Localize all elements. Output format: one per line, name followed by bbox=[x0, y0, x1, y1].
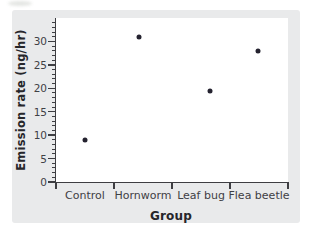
y-minor-tick bbox=[52, 92, 56, 93]
y-minor-tick bbox=[52, 50, 56, 51]
data-point-flea-beetle bbox=[256, 48, 261, 53]
y-minor-tick bbox=[52, 167, 56, 168]
y-minor-tick bbox=[52, 60, 56, 61]
y-minor-tick bbox=[52, 46, 56, 47]
data-point-hornworm bbox=[137, 34, 142, 39]
x-category-label: Flea beetle bbox=[228, 189, 289, 202]
y-minor-tick bbox=[52, 121, 56, 122]
y-minor-tick bbox=[52, 22, 56, 23]
y-minor-tick bbox=[52, 97, 56, 98]
y-minor-tick bbox=[52, 55, 56, 56]
y-minor-tick bbox=[52, 144, 56, 145]
data-point-control bbox=[83, 137, 88, 142]
figure-page: Emission rate (ng/hr) 051015202530Contro… bbox=[0, 0, 309, 234]
y-major-tick bbox=[48, 88, 55, 90]
y-tick-label: 10 bbox=[17, 128, 47, 142]
x-category-label: Leaf bug bbox=[177, 189, 225, 202]
x-tick bbox=[113, 182, 115, 189]
y-major-tick bbox=[48, 181, 55, 183]
y-minor-tick bbox=[52, 139, 56, 140]
y-minor-tick bbox=[52, 172, 56, 173]
y-tick-label: 25 bbox=[17, 58, 47, 72]
y-minor-tick bbox=[52, 149, 56, 150]
y-minor-tick bbox=[52, 177, 56, 178]
y-minor-tick bbox=[52, 163, 56, 164]
y-tick-label: 0 bbox=[17, 175, 47, 189]
y-minor-tick bbox=[52, 130, 56, 131]
x-category-label: Control bbox=[65, 189, 105, 202]
y-tick-label: 15 bbox=[17, 105, 47, 119]
y-minor-tick bbox=[52, 83, 56, 84]
y-major-tick bbox=[48, 158, 55, 160]
plot-area: 051015202530ControlHornwormLeaf bugFlea … bbox=[55, 18, 288, 183]
y-major-tick bbox=[48, 134, 55, 136]
y-minor-tick bbox=[52, 32, 56, 33]
scan-artifact bbox=[8, 1, 32, 6]
y-tick-label: 30 bbox=[17, 34, 47, 48]
chart-card: Emission rate (ng/hr) 051015202530Contro… bbox=[12, 10, 300, 223]
y-minor-tick bbox=[52, 27, 56, 28]
y-minor-tick bbox=[52, 153, 56, 154]
y-major-tick bbox=[48, 41, 55, 43]
y-tick-label: 20 bbox=[17, 81, 47, 95]
y-minor-tick bbox=[52, 107, 56, 108]
x-tick bbox=[55, 182, 57, 189]
x-category-label: Hornworm bbox=[114, 189, 171, 202]
y-minor-tick bbox=[52, 116, 56, 117]
y-major-tick bbox=[48, 111, 55, 113]
x-tick bbox=[171, 182, 173, 189]
y-minor-tick bbox=[52, 36, 56, 37]
data-point-leaf-bug bbox=[208, 88, 213, 93]
y-tick-label: 5 bbox=[17, 152, 47, 166]
x-tick bbox=[229, 182, 231, 189]
y-axis-title: Emission rate (ng/hr) bbox=[14, 29, 28, 170]
x-tick bbox=[287, 182, 289, 189]
y-minor-tick bbox=[52, 69, 56, 70]
y-minor-tick bbox=[52, 78, 56, 79]
y-major-tick bbox=[48, 64, 55, 66]
y-minor-tick bbox=[52, 102, 56, 103]
y-minor-tick bbox=[52, 74, 56, 75]
x-axis-title: Group bbox=[150, 209, 192, 223]
y-minor-tick bbox=[52, 125, 56, 126]
